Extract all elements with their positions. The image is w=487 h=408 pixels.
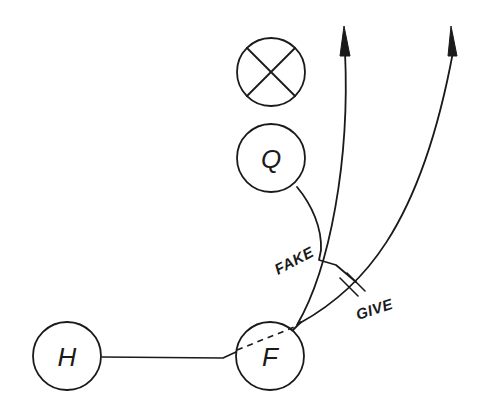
give-annotation: GIVE: [354, 295, 396, 323]
arrow-up-icon: [448, 26, 457, 56]
halfback-label: H: [58, 342, 77, 372]
fake-annotation: FAKE: [271, 243, 317, 278]
quarterback-label: Q: [261, 144, 281, 174]
halfback-route: [102, 352, 236, 358]
arrow-up-icon: [340, 26, 350, 56]
route-outside-path: [300, 52, 453, 323]
play-diagram: Q H F FAKE GIVE: [0, 0, 487, 408]
fullback-label: F: [262, 342, 280, 372]
fullback-marker: F: [236, 322, 304, 390]
route-inside-path: [297, 52, 346, 325]
quarterback-path: [297, 187, 356, 282]
halfback-marker: H: [33, 322, 101, 390]
defender-marker: [237, 38, 305, 106]
quarterback-marker: Q: [237, 124, 305, 192]
